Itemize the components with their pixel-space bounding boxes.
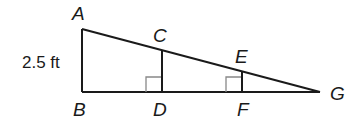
label-e: E bbox=[235, 46, 248, 67]
label-c: C bbox=[153, 25, 167, 46]
label-g: G bbox=[330, 83, 345, 104]
label-b: B bbox=[73, 99, 86, 120]
right-angle-mark-d bbox=[146, 77, 161, 92]
segment-ag bbox=[82, 29, 320, 92]
right-angle-mark-f bbox=[226, 77, 241, 92]
label-f: F bbox=[237, 99, 250, 120]
label-a: A bbox=[71, 3, 85, 24]
measurement-ab: 2.5 ft bbox=[22, 53, 60, 72]
triangle-diagram: A B C D E F G 2.5 ft bbox=[0, 0, 351, 123]
label-d: D bbox=[153, 99, 167, 120]
